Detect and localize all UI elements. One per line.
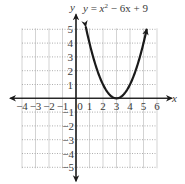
y-tick-label: 2: [68, 65, 74, 77]
x-tick-label: 2: [100, 100, 106, 112]
y-tick-label: −5: [62, 161, 74, 173]
y-tick-label: 4: [68, 37, 74, 49]
x-tick-label: −3: [30, 100, 42, 112]
x-tick-label: 0: [77, 100, 83, 112]
x-tick-label: −4: [16, 100, 28, 112]
y-tick-label: 3: [68, 51, 74, 63]
axes: [10, 14, 172, 181]
y-tick-label: −4: [62, 148, 74, 160]
y-tick-label: −3: [62, 134, 74, 146]
y-axis-label: y: [69, 1, 75, 13]
x-tick-label: 4: [127, 100, 133, 112]
x-tick-label: −2: [43, 100, 55, 112]
y-tick-label: 1: [68, 79, 74, 91]
x-tick-label: 5: [141, 100, 147, 112]
y-tick-label: −1: [62, 106, 74, 118]
x-tick-label: 3: [114, 100, 120, 112]
x-tick-label: 6: [154, 100, 160, 112]
y-tick-label: −2: [62, 120, 74, 132]
parabola-graph: −4−3−2−1012345612345−1−2−3−4−5 y = x2 − …: [0, 0, 185, 184]
x-axis-label: x: [171, 92, 177, 104]
y-tick-label: 5: [68, 23, 74, 35]
x-tick-label: 1: [87, 100, 93, 112]
equation-label: y = x2 − 6x + 9: [82, 2, 148, 14]
